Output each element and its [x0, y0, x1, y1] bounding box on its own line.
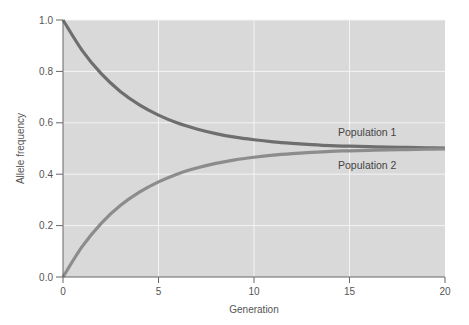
y-tick-label: 0.2	[39, 220, 53, 231]
x-tick-label: 10	[248, 286, 260, 297]
y-axis-title: Allele frequency	[15, 113, 26, 184]
y-tick-label: 0.4	[39, 169, 53, 180]
y-tick-label: 0.0	[39, 272, 53, 283]
series-label-1: Population 1	[338, 126, 397, 138]
x-axis-ticks: 05101520	[60, 277, 451, 297]
y-tick-label: 0.6	[39, 117, 53, 128]
x-axis-title: Generation	[229, 304, 278, 315]
y-axis-ticks: 0.00.20.40.60.81.0	[39, 15, 63, 283]
series-label-2: Population 2	[338, 159, 397, 171]
allele-frequency-chart: 05101520 0.00.20.40.60.81.0 Population 1…	[0, 0, 469, 325]
x-tick-label: 5	[156, 286, 162, 297]
x-tick-label: 0	[60, 286, 66, 297]
x-tick-label: 15	[344, 286, 356, 297]
y-tick-label: 1.0	[39, 15, 53, 26]
x-tick-label: 20	[439, 286, 451, 297]
y-tick-label: 0.8	[39, 66, 53, 77]
